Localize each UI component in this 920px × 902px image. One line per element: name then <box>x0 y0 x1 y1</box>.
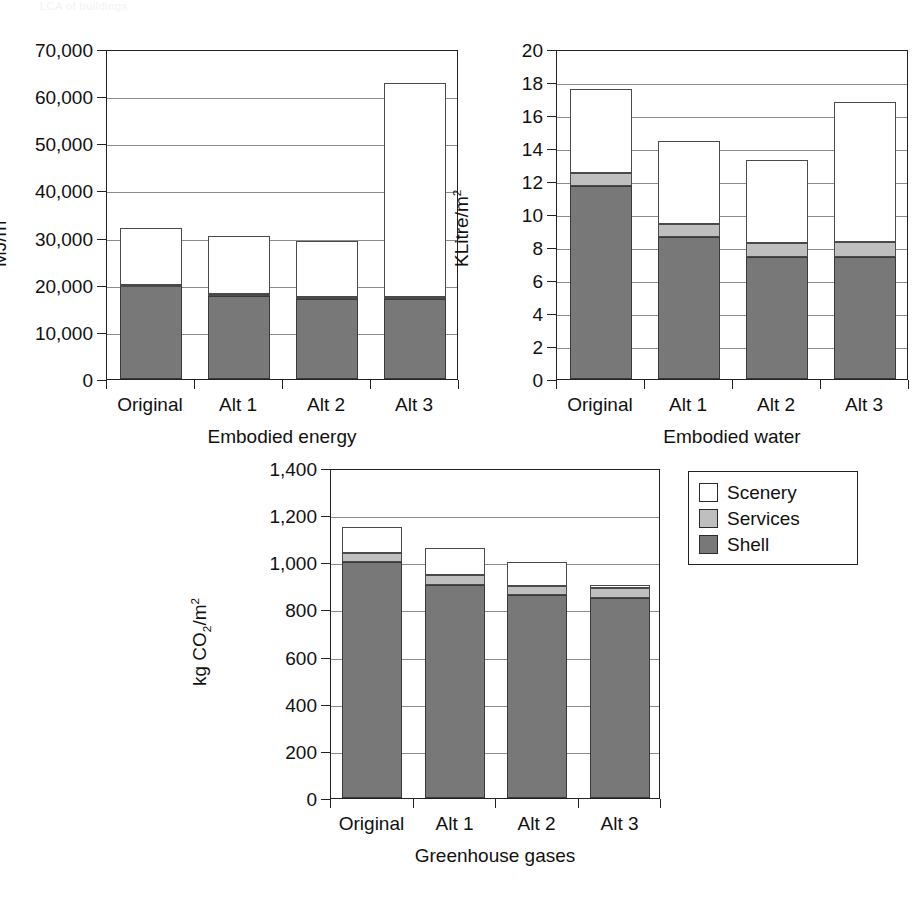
y-axis-label: 1,200 <box>201 507 317 526</box>
y-axis-tick <box>547 182 556 183</box>
shell-swatch-icon <box>699 535 718 554</box>
x-axis-tick <box>660 799 661 808</box>
y-axis-tick <box>97 97 106 98</box>
y-axis-label: 8 <box>463 239 543 258</box>
bar-segment-shell <box>570 186 632 379</box>
bar-segment-services <box>746 243 808 257</box>
x-axis-label: Original <box>556 394 644 416</box>
bar-alt-1 <box>208 49 270 379</box>
y-axis-label: 60,000 <box>1 88 93 107</box>
scenery-swatch-icon <box>699 483 718 502</box>
bar-segment-shell <box>507 595 567 798</box>
bar-segment-scenery <box>834 102 896 242</box>
x-axis-tick <box>370 380 371 389</box>
plot-area <box>556 50 908 380</box>
bar-segment-scenery <box>658 141 720 224</box>
bar-segment-shell <box>746 257 808 379</box>
y-axis-title: MJ/m2 <box>0 214 11 267</box>
chart-greenhouse-gases: 02004006008001,0001,2001,400kg CO2/m2Ori… <box>200 455 680 875</box>
bar-segment-shell <box>834 257 896 379</box>
x-axis-label: Alt 2 <box>732 394 820 416</box>
y-axis-title: KLitre/m2 <box>450 190 473 267</box>
bar-alt-1 <box>425 468 485 798</box>
bar-alt-2 <box>507 468 567 798</box>
y-axis-label: 1,400 <box>201 460 317 479</box>
bar-alt-2 <box>296 49 358 379</box>
y-axis-tick <box>547 149 556 150</box>
legend-label-shell: Shell <box>727 535 769 554</box>
x-axis-label: Alt 3 <box>820 394 908 416</box>
x-axis-label: Alt 1 <box>194 394 282 416</box>
y-axis-tick <box>547 380 556 381</box>
x-axis-label: Alt 3 <box>578 813 661 835</box>
y-axis-tick <box>97 380 106 381</box>
bar-alt-3 <box>590 468 650 798</box>
bar-segment-shell <box>120 286 182 379</box>
x-axis-tick <box>644 380 645 389</box>
bar-segment-shell <box>296 299 358 379</box>
chart-embodied-water: 02468101214161820KLitre/m2OriginalAlt 1A… <box>450 36 920 446</box>
bar-segment-services <box>425 575 485 584</box>
bar-segment-services <box>296 297 358 299</box>
y-axis-label: 0 <box>463 371 543 390</box>
y-axis-tick <box>97 144 106 145</box>
bar-original <box>570 49 632 379</box>
x-axis-label: Alt 3 <box>370 394 458 416</box>
y-axis-label: 600 <box>201 649 317 668</box>
bar-segment-scenery <box>570 89 632 173</box>
x-axis-tick <box>106 380 107 389</box>
x-axis-tick <box>820 380 821 389</box>
x-axis-tick <box>194 380 195 389</box>
y-axis-tick <box>321 799 330 800</box>
x-axis-tick <box>282 380 283 389</box>
bar-segment-scenery <box>507 562 567 586</box>
bar-segment-services <box>384 297 446 299</box>
y-axis-tick <box>321 658 330 659</box>
bar-segment-services <box>208 294 270 296</box>
page-header-text: LCA of buildings <box>40 0 340 12</box>
y-axis-label: 2 <box>463 338 543 357</box>
y-axis-tick <box>321 469 330 470</box>
y-axis-tick <box>321 610 330 611</box>
y-axis-label: 4 <box>463 305 543 324</box>
y-axis-label: 0 <box>1 371 93 390</box>
y-axis-label: 1,000 <box>201 554 317 573</box>
y-axis-tick <box>97 286 106 287</box>
y-axis-label: 0 <box>201 790 317 809</box>
x-axis-label: Original <box>106 394 194 416</box>
x-axis-label: Original <box>330 813 413 835</box>
bar-segment-scenery <box>425 548 485 575</box>
y-axis-label: 10,000 <box>1 324 93 343</box>
bar-segment-services <box>120 285 182 287</box>
y-axis-tick <box>547 347 556 348</box>
y-axis-title: kg CO2/m2 <box>188 598 213 686</box>
y-axis-tick <box>97 50 106 51</box>
legend-item-services: Services <box>699 505 845 531</box>
y-axis-tick <box>547 248 556 249</box>
bar-alt-2 <box>746 49 808 379</box>
bar-segment-scenery <box>342 527 402 553</box>
y-axis-label: 6 <box>463 272 543 291</box>
y-axis-label: 30,000 <box>1 230 93 249</box>
legend-label-services: Services <box>727 509 800 528</box>
bar-segment-services <box>658 224 720 237</box>
bar-segment-scenery <box>296 241 358 298</box>
y-axis-tick <box>97 191 106 192</box>
bar-segment-shell <box>384 299 446 379</box>
bar-segment-services <box>834 242 896 257</box>
y-axis-label: 400 <box>201 696 317 715</box>
y-axis-label: 14 <box>463 140 543 159</box>
bar-original <box>342 468 402 798</box>
y-axis-tick <box>547 314 556 315</box>
x-axis-tick <box>732 380 733 389</box>
bar-segment-shell <box>425 585 485 798</box>
x-axis-label: Alt 1 <box>644 394 732 416</box>
bar-alt-1 <box>658 49 720 379</box>
bar-original <box>120 49 182 379</box>
x-axis-label: Alt 1 <box>413 813 496 835</box>
y-axis-tick <box>321 752 330 753</box>
bar-segment-shell <box>658 237 720 379</box>
bar-segment-scenery <box>208 236 270 294</box>
x-axis-tick <box>330 799 331 808</box>
y-axis-label: 800 <box>201 601 317 620</box>
